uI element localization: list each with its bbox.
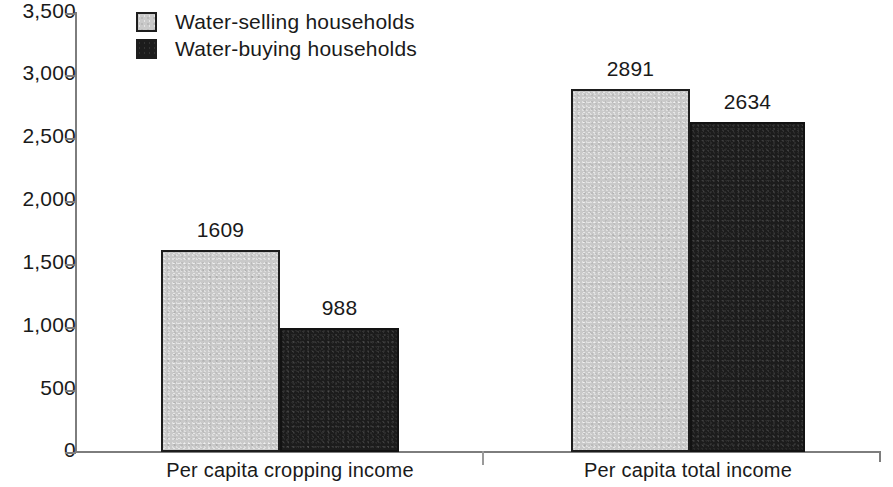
legend-swatch-black-icon <box>136 39 157 59</box>
y-tick-mark <box>65 138 76 140</box>
bar-chart: Water-selling households Water-buying ho… <box>0 0 893 487</box>
bar-cropping-water-buying <box>280 328 399 452</box>
bar-value-label-total-water-buying: 2634 <box>690 90 805 114</box>
y-tick-label-2000: 2,000 <box>14 187 76 211</box>
x-axis-category-label-total-income: Per capita total income <box>528 459 848 482</box>
x-axis-end-tick <box>879 451 881 462</box>
chart-legend: Water-selling households Water-buying ho… <box>136 8 417 62</box>
y-tick-label-0: 0 <box>14 438 76 462</box>
bar-value-label-cropping-water-buying: 988 <box>280 296 399 320</box>
y-tick-label-1500: 1,500 <box>14 250 76 274</box>
bar-total-water-selling <box>571 89 690 452</box>
x-axis-category-separator-tick <box>482 451 484 465</box>
bar-value-label-cropping-water-selling: 1609 <box>161 218 280 242</box>
y-tick-mark <box>65 327 76 329</box>
legend-swatch-light-gray-icon <box>136 12 157 32</box>
legend-item-water-buying: Water-buying households <box>136 35 417 62</box>
legend-item-water-selling: Water-selling households <box>136 8 417 35</box>
y-tick-label-1000: 1,000 <box>14 313 76 337</box>
bar-value-label-total-water-selling: 2891 <box>571 57 690 81</box>
y-tick-mark <box>65 201 76 203</box>
y-tick-mark <box>65 13 76 15</box>
y-tick-mark <box>65 264 76 266</box>
y-tick-label-2500: 2,500 <box>14 124 76 148</box>
x-axis-category-label-cropping-income: Per capita cropping income <box>130 459 450 482</box>
y-tick-label-500: 500 <box>14 376 76 400</box>
legend-label-water-buying: Water-buying households <box>175 37 417 61</box>
y-tick-mark <box>65 390 76 392</box>
y-tick-mark <box>65 75 76 77</box>
y-tick-label-3000: 3,000 <box>14 61 76 85</box>
legend-label-water-selling: Water-selling households <box>175 10 415 34</box>
y-tick-label-3500: 3,500 <box>14 0 76 23</box>
bar-cropping-water-selling <box>161 250 280 452</box>
bar-total-water-buying <box>690 122 805 452</box>
